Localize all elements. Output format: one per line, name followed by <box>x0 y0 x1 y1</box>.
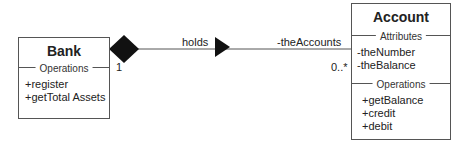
direction-arrow-icon <box>215 37 230 57</box>
operations-label: Operations <box>36 63 93 74</box>
class-bank[interactable]: Bank Operations +register +getTotal Asse… <box>18 37 110 119</box>
operation: +getTotal Assets <box>25 91 105 103</box>
target-multiplicity: 0..* <box>331 61 348 73</box>
operation: +credit <box>362 107 395 119</box>
target-role: -theAccounts <box>277 36 341 48</box>
operation: +register <box>25 78 68 90</box>
attributes-label: Attributes <box>376 31 426 42</box>
source-multiplicity: 1 <box>116 61 122 73</box>
class-name: Bank <box>19 43 109 59</box>
operations-separator: Operations <box>352 83 450 84</box>
attributes-separator: Attributes <box>352 35 450 36</box>
operation: +getBalance <box>362 94 423 106</box>
operations-label: Operations <box>373 79 430 90</box>
attribute: -theNumber <box>357 46 415 58</box>
operation: +debit <box>362 120 392 132</box>
composition-diamond-icon <box>109 35 139 63</box>
association-name: holds <box>182 36 208 48</box>
attribute: -theBalance <box>357 59 416 71</box>
operations-separator: Operations <box>19 67 109 68</box>
class-account[interactable]: Account Attributes -theNumber -theBalanc… <box>351 3 451 140</box>
class-name: Account <box>352 9 450 25</box>
